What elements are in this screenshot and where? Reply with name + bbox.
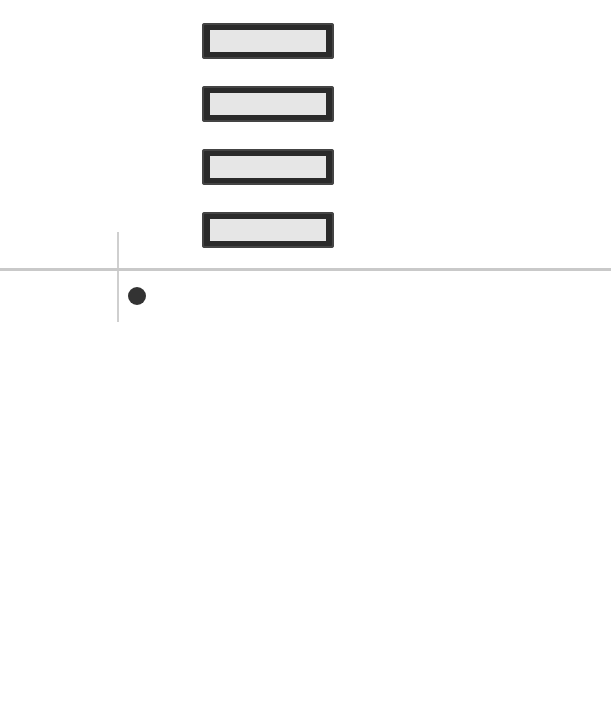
calculator-display	[202, 86, 334, 122]
part-7b	[186, 382, 210, 402]
calculator-display	[202, 23, 334, 59]
section-divider	[0, 268, 611, 271]
display-value	[210, 30, 326, 52]
level-badge	[128, 287, 146, 305]
example-b	[150, 66, 174, 86]
example-a	[150, 2, 174, 22]
display-value	[210, 219, 326, 241]
display-value	[210, 93, 326, 115]
example-c	[150, 130, 174, 150]
example-d	[150, 193, 174, 213]
part-7a	[186, 362, 210, 382]
calculator-display	[202, 149, 334, 185]
calculator-display	[202, 212, 334, 248]
display-value	[210, 156, 326, 178]
vertical-divider	[117, 232, 119, 322]
question-7	[161, 288, 186, 309]
